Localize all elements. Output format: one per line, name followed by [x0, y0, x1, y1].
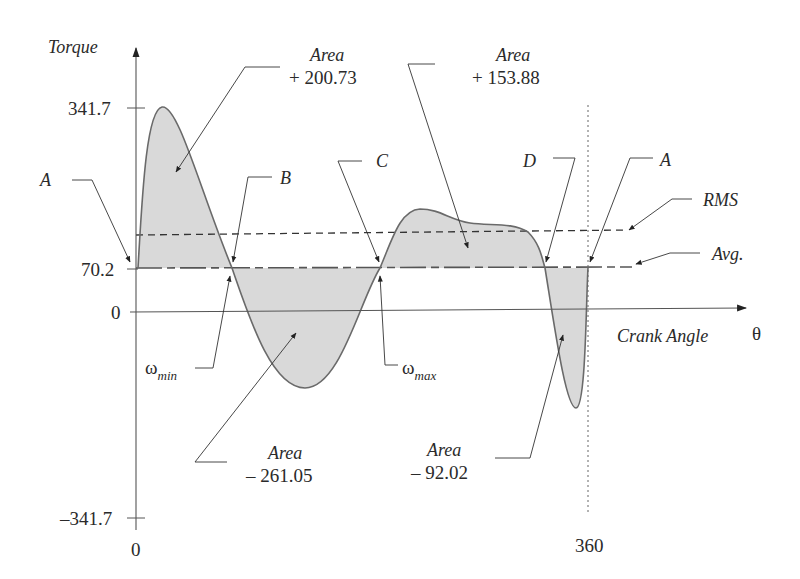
- area2-title: Area: [496, 46, 530, 64]
- omega-max-subscript: max: [415, 368, 437, 383]
- point-c: C: [376, 152, 388, 170]
- leader-avg: [636, 253, 700, 264]
- y-axis-label: Torque: [48, 38, 98, 56]
- rms-label: RMS: [703, 191, 738, 209]
- omega-max-label: ωmax: [402, 358, 436, 377]
- leader-a2: [590, 158, 653, 262]
- omega-min-label: ωmin: [145, 358, 177, 377]
- leader-a1: [72, 180, 130, 262]
- point-a-start: A: [40, 171, 51, 189]
- leader-area1: [176, 67, 280, 172]
- y-tick-zero: 0: [111, 303, 121, 322]
- avg-label: Avg.: [712, 245, 744, 263]
- point-b: B: [280, 169, 291, 187]
- area3-value: – 261.05: [246, 466, 313, 485]
- area3-title: Area: [268, 444, 302, 462]
- y-tick-avg: 70.2: [81, 260, 114, 279]
- leader-rms: [629, 199, 692, 230]
- leader-omega-min: [195, 276, 230, 368]
- leader-omega-max: [380, 276, 398, 365]
- point-d: D: [523, 152, 536, 170]
- area4-value: – 92.02: [411, 463, 468, 482]
- leader-area4: [495, 335, 563, 458]
- point-a-end: A: [660, 151, 671, 169]
- area4-title: Area: [427, 441, 461, 459]
- omega-symbol: ω: [402, 357, 415, 378]
- torque-diagram: [0, 0, 800, 579]
- leader-c: [338, 161, 379, 262]
- area1-value: + 200.73: [289, 68, 357, 87]
- omega-min-subscript: min: [158, 368, 178, 383]
- area2-value: + 153.88: [472, 68, 540, 87]
- x-tick-360: 360: [575, 536, 604, 555]
- y-tick-neg341: –341.7: [60, 509, 112, 528]
- theta-symbol: θ: [752, 324, 761, 343]
- x-axis: [130, 308, 746, 312]
- y-tick-341: 341.7: [68, 99, 111, 118]
- leader-d: [546, 158, 575, 262]
- area1-title: Area: [310, 46, 344, 64]
- leader-b: [233, 177, 272, 262]
- omega-symbol: ω: [145, 357, 158, 378]
- x-axis-label: Crank Angle: [617, 327, 708, 345]
- x-tick-zero: 0: [131, 540, 141, 559]
- shaded-area: [138, 107, 588, 408]
